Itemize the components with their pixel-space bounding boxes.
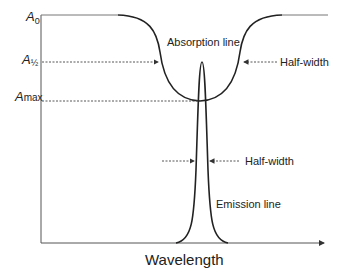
label-a0: A0	[25, 9, 40, 26]
abs-halfwidth-label: Half-width	[280, 56, 329, 68]
absorption-curve	[118, 15, 282, 101]
emission-curve	[176, 62, 228, 243]
emission-line-label: Emission line	[216, 198, 281, 210]
em-halfwidth-label: Half-width	[245, 155, 294, 167]
spectral-line-diagram: A0 A½ Amax Absorption line Half-width Ha…	[0, 0, 340, 278]
label-amax: Amax	[14, 89, 43, 104]
absorption-line-label: Absorption line	[167, 36, 240, 48]
label-ahalf: A½	[21, 52, 39, 68]
x-axis-label: Wavelength	[145, 251, 224, 268]
